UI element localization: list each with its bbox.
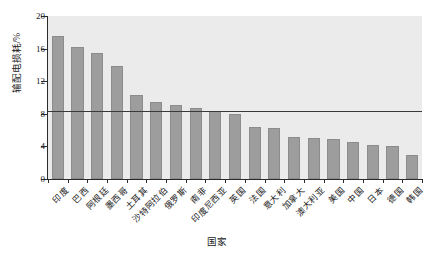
- x-tick-label: 德国: [384, 184, 405, 205]
- bar: [386, 146, 398, 179]
- bar: [170, 105, 182, 179]
- bar: [130, 95, 142, 179]
- plot-area: 048121620印度巴西阿根廷墨西哥土耳其沙特阿拉伯俄罗斯南非印度尼西亚英国法…: [47, 16, 422, 180]
- x-tick-mark: [48, 179, 49, 183]
- x-tick-mark: [225, 179, 226, 183]
- bar: [91, 53, 103, 179]
- y-tick-label: 4: [41, 141, 46, 151]
- bar: [249, 127, 261, 179]
- x-tick-mark: [265, 179, 266, 183]
- plot-inner: 048121620印度巴西阿根廷墨西哥土耳其沙特阿拉伯俄罗斯南非印度尼西亚英国法…: [48, 16, 422, 179]
- x-tick-mark: [127, 179, 128, 183]
- x-tick-mark: [383, 179, 384, 183]
- chart-figure: 输配电损耗/% 048121620印度巴西阿根廷墨西哥土耳其沙特阿拉伯俄罗斯南非…: [0, 0, 433, 253]
- bar: [190, 108, 202, 179]
- bar: [71, 47, 83, 179]
- x-tick-mark: [87, 179, 88, 183]
- bar: [150, 102, 162, 179]
- x-tick-label: 美国: [325, 184, 346, 205]
- x-tick-label: 中国: [345, 184, 366, 205]
- x-tick-mark: [324, 179, 325, 183]
- bar: [288, 137, 300, 179]
- x-tick-label: 韩国: [404, 184, 425, 205]
- bar: [229, 114, 241, 179]
- x-tick-label: 日本: [364, 184, 385, 205]
- x-tick-mark: [107, 179, 108, 183]
- bar: [308, 138, 320, 179]
- y-tick-label: 0: [41, 174, 46, 184]
- x-axis-title: 国家: [0, 234, 433, 248]
- bar: [52, 36, 64, 179]
- x-tick-mark: [68, 179, 69, 183]
- x-tick-label: 印度: [49, 184, 70, 205]
- bar: [209, 111, 221, 179]
- bar: [367, 145, 379, 179]
- x-tick-mark: [343, 179, 344, 183]
- bar: [406, 155, 418, 179]
- x-tick-mark: [284, 179, 285, 183]
- y-tick-label: 20: [36, 11, 45, 21]
- y-tick-label: 16: [36, 44, 45, 54]
- x-tick-mark: [166, 179, 167, 183]
- x-tick-mark: [304, 179, 305, 183]
- y-axis-title: 输配电损耗/%: [9, 3, 23, 123]
- bar: [327, 139, 339, 179]
- x-tick-mark: [422, 179, 423, 183]
- y-tick-label: 8: [41, 109, 46, 119]
- y-tick-label: 12: [36, 76, 45, 86]
- x-tick-mark: [146, 179, 147, 183]
- x-tick-label: 英国: [227, 184, 248, 205]
- x-tick-mark: [186, 179, 187, 183]
- x-tick-mark: [245, 179, 246, 183]
- x-tick-mark: [363, 179, 364, 183]
- bar: [347, 142, 359, 179]
- x-tick-mark: [205, 179, 206, 183]
- x-tick-mark: [402, 179, 403, 183]
- reference-line: [48, 111, 422, 112]
- bar: [111, 66, 123, 179]
- bar: [268, 128, 280, 179]
